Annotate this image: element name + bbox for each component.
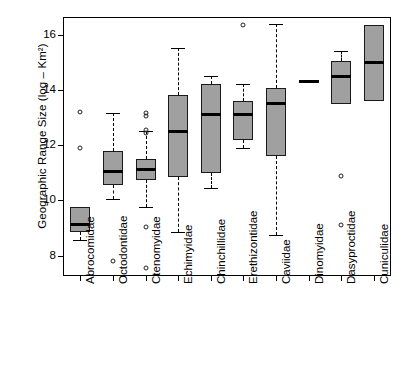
x-axis-tick	[113, 275, 114, 281]
x-axis-tick	[276, 275, 277, 281]
x-axis-tick	[341, 275, 342, 281]
x-axis-tick	[80, 275, 81, 281]
x-axis-tick-label: Cuniculidae	[378, 224, 390, 284]
x-axis-tick	[146, 275, 147, 281]
y-axis-tick-label: 8	[26, 249, 56, 261]
chart-root: Geographic Range Size (log – Km²) 810121…	[0, 0, 403, 380]
y-axis-tick-label: 16	[26, 28, 56, 40]
x-axis-tick-label: Caviidae	[280, 239, 292, 284]
x-axis-tick	[243, 275, 244, 281]
x-axis-tick-label: Dinomyidae	[313, 223, 325, 284]
median-line	[364, 61, 384, 64]
x-axis-tick-label: Dasyproctidae	[345, 210, 357, 284]
x-axis-tick-label: Abrocomidae	[84, 216, 96, 284]
plot-area	[63, 17, 391, 276]
y-axis-tick-label: 14	[26, 83, 56, 95]
x-axis-tick	[309, 275, 310, 281]
y-axis-title: Geographic Range Size (log – Km²)	[36, 16, 48, 256]
x-axis-tick-label: Octodontidae	[117, 216, 129, 284]
x-axis-tick-label: Chinchillidae	[215, 219, 227, 284]
x-axis-tick-label: Erethizontidae	[247, 210, 259, 284]
x-axis-tick-label: Ctenomyidae	[150, 216, 162, 284]
y-axis-tick-label: 12	[26, 138, 56, 150]
box-plot-group	[64, 18, 390, 275]
y-axis-tick-label: 10	[26, 193, 56, 205]
x-axis-tick	[211, 275, 212, 281]
x-axis-tick	[178, 275, 179, 281]
plot-inner	[64, 18, 390, 275]
x-axis-tick-label: Echimyidae	[182, 225, 194, 284]
x-axis-tick	[374, 275, 375, 281]
